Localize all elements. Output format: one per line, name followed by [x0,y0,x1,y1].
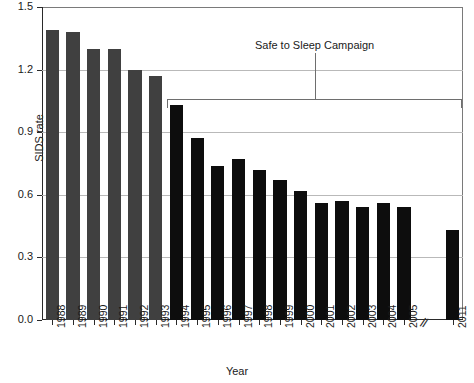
y-tick-label: 1.2 [0,64,33,75]
plot-frame-right [462,7,463,320]
bar [87,49,100,320]
plot-area: // [42,7,463,320]
bar [149,76,162,320]
annotation-bracket-left-tick [167,99,168,108]
annotation-bracket-line [167,99,462,100]
y-tick-mark [37,195,42,196]
campaign-annotation-label: Safe to Sleep Campaign [255,39,374,51]
annotation-bracket-right-tick [461,99,462,108]
x-tick-mark [94,320,95,325]
y-tick-mark [37,7,42,8]
x-tick-mark [280,320,281,325]
x-tick-label: 1989 [77,305,88,328]
x-tick-mark [383,320,384,325]
x-tick-mark [239,320,240,325]
x-tick-label: 1990 [98,305,109,328]
bar [66,32,79,320]
x-tick-label: 1997 [243,305,254,328]
axis-break-marker: // [419,316,428,330]
bar [108,49,121,320]
x-tick-mark [259,320,260,325]
x-axis-title: Year [0,365,474,377]
x-tick-label: 1996 [222,305,233,328]
x-tick-label: 1995 [201,305,212,328]
bar [211,166,224,320]
bar [397,207,410,320]
x-tick-label: 1992 [139,305,150,328]
y-tick-label: 0.9 [0,126,33,137]
x-tick-mark [176,320,177,325]
bar [335,201,348,320]
bar [377,203,390,320]
x-tick-label: 2011 [457,305,468,328]
x-tick-mark [114,320,115,325]
x-tick-label: 2002 [346,305,357,328]
y-tick-label: 0.6 [0,189,33,200]
bar [170,105,183,320]
x-tick-mark [321,320,322,325]
bar [356,207,369,320]
bar [46,30,59,320]
x-tick-mark [453,320,454,325]
y-tick-label: 0.0 [0,314,33,325]
x-tick-mark [73,320,74,325]
x-tick-label: 2003 [367,305,378,328]
bar [232,159,245,320]
bar [315,203,328,320]
x-tick-label: 1998 [263,305,274,328]
x-tick-label: 1994 [180,305,191,328]
x-tick-label: 1991 [118,305,129,328]
annotation-stem [315,53,316,99]
bar [191,138,204,320]
y-tick-mark [37,70,42,71]
bar [128,70,141,320]
sids-rate-bar-chart: SIDS rate // Safe to Sleep Campaign 1.51… [0,0,474,383]
y-tick-mark [37,257,42,258]
x-tick-mark [156,320,157,325]
x-tick-label: 2005 [408,305,419,328]
y-tick-mark [37,320,42,321]
x-tick-mark [404,320,405,325]
bar [273,180,286,320]
y-tick-mark [37,132,42,133]
bar [294,191,307,320]
plot-frame-top [42,7,463,8]
x-tick-mark [197,320,198,325]
x-tick-mark [218,320,219,325]
y-tick-label: 0.3 [0,251,33,262]
x-tick-label: 1993 [160,305,171,328]
x-tick-mark [135,320,136,325]
x-tick-mark [301,320,302,325]
gridline [42,132,463,133]
x-tick-label: 2004 [387,305,398,328]
x-tick-label: 2001 [325,305,336,328]
y-tick-label: 1.5 [0,1,33,12]
x-tick-label: 1999 [284,305,295,328]
x-tick-mark [363,320,364,325]
x-tick-mark [52,320,53,325]
x-tick-label: 2000 [305,305,316,328]
x-tick-label: 1988 [56,305,67,328]
x-tick-mark [342,320,343,325]
gridline [42,70,463,71]
bar [253,170,266,320]
y-axis-line [42,7,43,320]
